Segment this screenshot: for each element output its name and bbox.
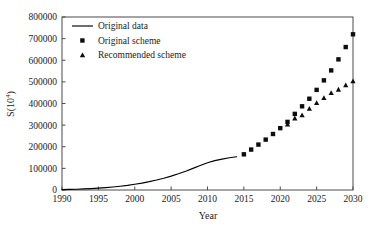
y-tick-label: 600000 xyxy=(29,56,58,66)
series-1 xyxy=(62,157,237,190)
y-tick-label: 700000 xyxy=(29,34,58,44)
data-point-square xyxy=(344,45,348,49)
legend-label: Recommended scheme xyxy=(98,50,186,60)
legend-label: Original scheme xyxy=(98,36,161,46)
data-point-triangle xyxy=(350,78,355,83)
x-tick-label: 2005 xyxy=(162,194,181,204)
y-tick-label: 200000 xyxy=(29,142,58,152)
series-3 xyxy=(285,78,356,126)
y-tick-label: 500000 xyxy=(29,77,58,87)
x-tick-label: 2030 xyxy=(344,194,363,204)
x-tick-label: 2025 xyxy=(307,194,326,204)
data-point-square xyxy=(278,126,282,130)
x-axis-ticks xyxy=(62,187,353,191)
data-point-triangle xyxy=(299,113,304,118)
series-line-path xyxy=(62,157,237,190)
x-tick-label: 2000 xyxy=(125,194,144,204)
data-point-square xyxy=(300,104,304,108)
x-tick-label: 2010 xyxy=(198,194,217,204)
x-tick-label: 1990 xyxy=(53,194,72,204)
legend-item-2: Original scheme xyxy=(80,36,160,46)
chart-figure: 0100000200000300000400000500000600000700… xyxy=(0,0,378,230)
data-point-square xyxy=(242,152,246,156)
x-tick-label: 2015 xyxy=(234,194,253,204)
data-point-square xyxy=(314,88,318,92)
y-tick-label: 800000 xyxy=(29,12,58,22)
data-point-triangle xyxy=(314,100,319,105)
data-point-square xyxy=(293,112,297,116)
x-axis-tick-labels: 199019952000200520102015202020252030 xyxy=(53,194,363,204)
y-tick-label: 400000 xyxy=(29,99,58,109)
x-axis-title: Year xyxy=(199,210,218,221)
data-point-triangle xyxy=(307,106,312,111)
legend-triangle-icon xyxy=(80,53,85,58)
series-2 xyxy=(242,32,356,156)
y-axis-title: S(104) xyxy=(4,91,17,117)
data-point-triangle xyxy=(321,95,326,100)
data-point-square xyxy=(329,68,333,72)
data-point-triangle xyxy=(292,116,297,121)
chart-legend: Original dataOriginal schemeRecommended … xyxy=(72,21,186,60)
data-point-square xyxy=(322,78,326,82)
data-point-square xyxy=(249,147,253,151)
x-tick-label: 1995 xyxy=(89,194,108,204)
data-point-square xyxy=(271,132,275,136)
y-tick-label: 100000 xyxy=(29,164,58,174)
legend-square-icon xyxy=(80,38,84,42)
legend-label: Original data xyxy=(98,21,149,31)
data-point-square xyxy=(307,97,311,101)
data-point-triangle xyxy=(329,90,334,95)
y-axis-ticks xyxy=(62,17,66,190)
x-tick-label: 2020 xyxy=(271,194,290,204)
data-point-square xyxy=(336,57,340,61)
y-axis-title-group: S(104) xyxy=(4,91,17,117)
legend-item-1: Original data xyxy=(72,21,149,31)
y-axis-tick-labels: 0100000200000300000400000500000600000700… xyxy=(29,12,58,195)
chart-canvas: 0100000200000300000400000500000600000700… xyxy=(0,0,378,230)
y-tick-label: 300000 xyxy=(29,121,58,131)
data-point-square xyxy=(256,142,260,146)
data-point-square xyxy=(351,32,355,36)
legend-item-3: Recommended scheme xyxy=(80,50,186,60)
data-point-square xyxy=(264,137,268,141)
data-point-triangle xyxy=(336,87,341,92)
data-point-triangle xyxy=(343,83,348,88)
